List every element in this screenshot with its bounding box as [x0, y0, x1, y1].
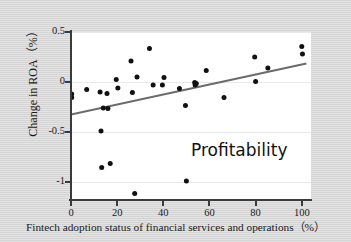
- data-point: [265, 66, 270, 71]
- data-point: [252, 55, 257, 60]
- x-tick-label: 40: [158, 208, 169, 219]
- data-point: [99, 129, 104, 134]
- data-point: [183, 103, 188, 108]
- y-tick-mark: [65, 181, 71, 183]
- data-point: [194, 81, 199, 86]
- data-point: [151, 83, 156, 88]
- data-point: [105, 106, 110, 111]
- x-tick-label: 100: [294, 208, 310, 219]
- data-point: [108, 161, 113, 166]
- y-tick-mark: [65, 81, 71, 83]
- data-point: [299, 44, 304, 49]
- data-point: [129, 59, 134, 64]
- data-point: [184, 179, 189, 184]
- data-point: [105, 91, 110, 96]
- x-tick-mark: [301, 200, 303, 206]
- data-point: [147, 46, 152, 51]
- y-tick-label: 0.5: [52, 26, 65, 37]
- data-point: [98, 90, 103, 95]
- y-tick-label: 0: [60, 76, 65, 87]
- x-tick-label: 60: [204, 208, 215, 219]
- data-point: [300, 52, 305, 57]
- x-tick-mark: [255, 200, 257, 206]
- data-point: [130, 90, 135, 95]
- plot-area: Profitability: [71, 32, 311, 199]
- data-point: [204, 68, 209, 73]
- y-tick-mark: [65, 131, 71, 133]
- data-point: [114, 77, 119, 82]
- figure-container: Profitability 0.50-0.5-1 020406080100 Ch…: [0, 0, 351, 242]
- data-point: [135, 75, 140, 80]
- data-point: [222, 95, 227, 100]
- data-points-group: [71, 44, 305, 196]
- x-tick-mark: [162, 200, 164, 206]
- x-axis-spine: [69, 199, 312, 201]
- y-axis-spine: [70, 30, 72, 201]
- x-tick-mark: [208, 200, 210, 206]
- data-point: [162, 75, 167, 80]
- data-point: [253, 79, 258, 84]
- data-point: [84, 87, 89, 92]
- x-axis-label: Fintech adoption status of financial ser…: [0, 222, 351, 233]
- data-point: [160, 83, 165, 88]
- y-axis-label: Change in ROA（%）: [27, 0, 39, 166]
- y-tick-label: -0.5: [48, 126, 65, 137]
- data-point: [115, 86, 120, 91]
- x-tick-mark: [116, 200, 118, 206]
- y-tick-label: -1: [56, 176, 65, 187]
- scatter-plot-svg: [71, 32, 311, 199]
- y-tick-mark: [65, 31, 71, 33]
- x-tick-mark: [70, 200, 72, 206]
- data-point: [99, 165, 104, 170]
- data-point: [101, 106, 106, 111]
- data-point: [132, 191, 137, 196]
- x-tick-label: 0: [68, 208, 73, 219]
- profitability-annotation: Profitability: [191, 142, 287, 159]
- x-tick-label: 80: [250, 208, 261, 219]
- data-point: [177, 86, 182, 91]
- x-tick-label: 20: [112, 208, 123, 219]
